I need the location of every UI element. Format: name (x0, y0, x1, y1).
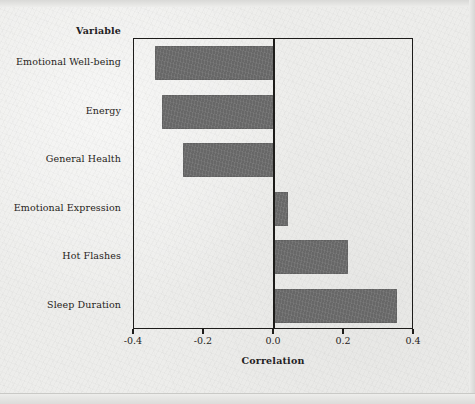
correlation-bar-chart: Variable Emotional Well-beingEnergyGener… (0, 0, 475, 404)
y-axis-label: Hot Flashes (0, 250, 121, 261)
x-tick-label: -0.2 (180, 335, 226, 346)
x-tick-mark (272, 329, 273, 334)
bar[interactable] (274, 192, 288, 226)
y-axis-label: General Health (0, 153, 121, 164)
x-tick-mark (202, 329, 203, 334)
zero-reference-line (273, 39, 275, 328)
y-axis-label: Sleep Duration (0, 299, 121, 310)
bar[interactable] (155, 46, 274, 80)
bar[interactable] (274, 240, 348, 274)
y-axis-label: Emotional Well-being (0, 56, 121, 67)
x-tick-label: 0.2 (320, 335, 366, 346)
x-axis-title: Correlation (133, 355, 413, 366)
bar[interactable] (162, 95, 274, 129)
plot-frame (133, 38, 413, 329)
y-axis-label: Energy (0, 105, 121, 116)
y-axis-label: Emotional Expression (0, 202, 121, 213)
bar[interactable] (274, 289, 397, 323)
x-tick-label: -0.4 (110, 335, 156, 346)
x-tick-mark (132, 329, 133, 334)
x-tick-mark (412, 329, 413, 334)
bar[interactable] (183, 143, 274, 177)
x-tick-label: 0.4 (390, 335, 436, 346)
x-tick-label: 0.0 (250, 335, 296, 346)
variable-column-header: Variable (0, 25, 121, 36)
x-tick-mark (342, 329, 343, 334)
